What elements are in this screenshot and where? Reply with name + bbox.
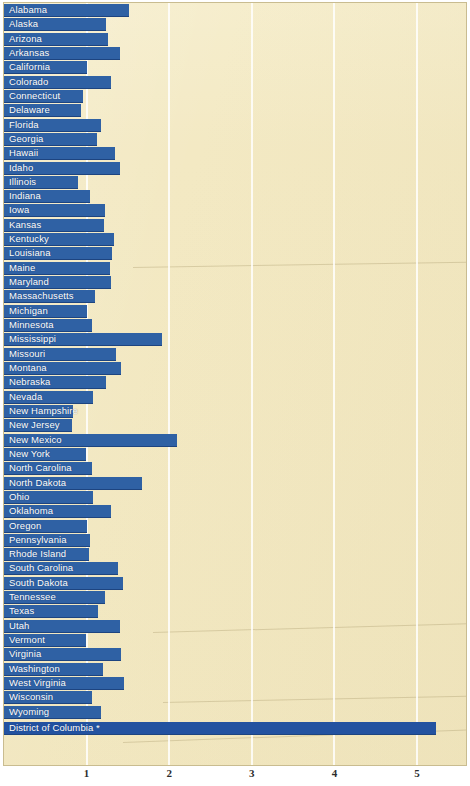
bar-label: South Dakota [9,577,68,589]
bar-row: Maine [4,262,466,274]
bar-label: Iowa [9,204,29,216]
bar-label: Montana [9,362,47,374]
bar-row: Minnesota [4,319,466,331]
bar-label: New Jersey [9,419,60,431]
bar-label: Alaska [9,18,38,30]
bar-label: North Carolina [9,462,72,474]
bar-label: Wyoming [9,706,49,718]
bar-label: North Dakota [9,477,66,489]
bar-label: Alabama [9,4,47,16]
bar-label: Vermont [9,634,45,646]
bar-row: Arkansas [4,47,466,59]
bar-label: Mississippi [9,333,56,345]
bar-row: Massachusetts [4,290,466,302]
bar-row: Oregon [4,520,466,532]
bar-label: Florida [9,119,39,131]
bar-label: Louisiana [9,247,51,259]
bar-row: Tennessee [4,591,466,603]
bar-row-district-of-columbia: District of Columbia * [4,722,466,734]
bar-row: Kentucky [4,233,466,245]
x-tick-label-3: 3 [249,767,255,779]
bar-label: Kansas [9,219,41,231]
bar-label: Arkansas [9,47,49,59]
bar-row: Wyoming [4,706,466,718]
bar-label: Delaware [9,104,50,116]
x-tick-label-2: 2 [166,767,172,779]
bar-row: Texas [4,605,466,617]
bar-row: Michigan [4,305,466,317]
bar-label: Rhode Island [9,548,66,560]
bar-row: Colorado [4,76,466,88]
bar-label: Ohio [9,491,29,503]
bar-label: Pennsylvania [9,534,67,546]
x-tick-label-1: 1 [84,767,90,779]
bar-row: Hawaii [4,147,466,159]
bar-row: New Jersey [4,419,466,431]
bar-label: New Hampshire [9,405,78,417]
bar-label: Idaho [9,162,33,174]
bar-row: Alabama [4,4,466,16]
bar-label: Wisconsin [9,691,53,703]
bar-label: Washington [9,663,60,675]
bar-label: Minnesota [9,319,54,331]
bar-label: Michigan [9,305,48,317]
bar-label: New York [9,448,50,460]
x-tick-label-5: 5 [414,767,420,779]
bar-row: New York [4,448,466,460]
bar-row: Nevada [4,391,466,403]
bar-row: New Mexico [4,434,466,446]
bar-label: Nebraska [9,376,50,388]
bar-row: Connecticut [4,90,466,102]
bar-chart: AlabamaAlaskaArizonaArkansasCaliforniaCo… [0,0,470,786]
bar-row: Nebraska [4,376,466,388]
bar-row: Oklahoma [4,505,466,517]
bar-label: Georgia [9,133,44,145]
plot-area: AlabamaAlaskaArizonaArkansasCaliforniaCo… [3,2,467,766]
bar-label: Illinois [9,176,36,188]
bar-label: Colorado [9,76,48,88]
bar-label: West Virginia [9,677,66,689]
bar-row: Alaska [4,18,466,30]
bar-row: Indiana [4,190,466,202]
bar-row: Florida [4,119,466,131]
bar-label: Missouri [9,348,45,360]
bar-label: California [9,61,50,73]
bar-row: Rhode Island [4,548,466,560]
bar-label: Virginia [9,648,41,660]
bar-row: Vermont [4,634,466,646]
bar-row: Wisconsin [4,691,466,703]
bar-row: Virginia [4,648,466,660]
bar-row: South Dakota [4,577,466,589]
bar-row: Kansas [4,219,466,231]
bar-row: Arizona [4,33,466,45]
bar-row: Missouri [4,348,466,360]
bar-label: Texas [9,605,34,617]
bar-row: Iowa [4,204,466,216]
bar-row: California [4,61,466,73]
bar-label: Massachusetts [9,290,74,302]
bar-row: North Carolina [4,462,466,474]
bar-label: Nevada [9,391,42,403]
bar-row: Maryland [4,276,466,288]
bar-row: West Virginia [4,677,466,689]
bar-label: Maryland [9,276,49,288]
x-axis: 12345 [3,766,467,786]
bar-label: Connecticut [9,90,60,102]
bar-row: New Hampshire [4,405,466,417]
bar-row: Ohio [4,491,466,503]
bar-row: Illinois [4,176,466,188]
bar-label: Utah [9,620,29,632]
bar-row: Georgia [4,133,466,145]
bar-label: Tennessee [9,591,56,603]
bar-label: South Carolina [9,562,73,574]
bar-label: Oklahoma [9,505,53,517]
bar-row: Utah [4,620,466,632]
bar-row: Washington [4,663,466,675]
bar-row: Louisiana [4,247,466,259]
bar-row: Pennsylvania [4,534,466,546]
x-tick-label-4: 4 [332,767,338,779]
bar-label: Oregon [9,520,41,532]
bar-label: Hawaii [9,147,38,159]
bar-row: Idaho [4,162,466,174]
bar-row: North Dakota [4,477,466,489]
